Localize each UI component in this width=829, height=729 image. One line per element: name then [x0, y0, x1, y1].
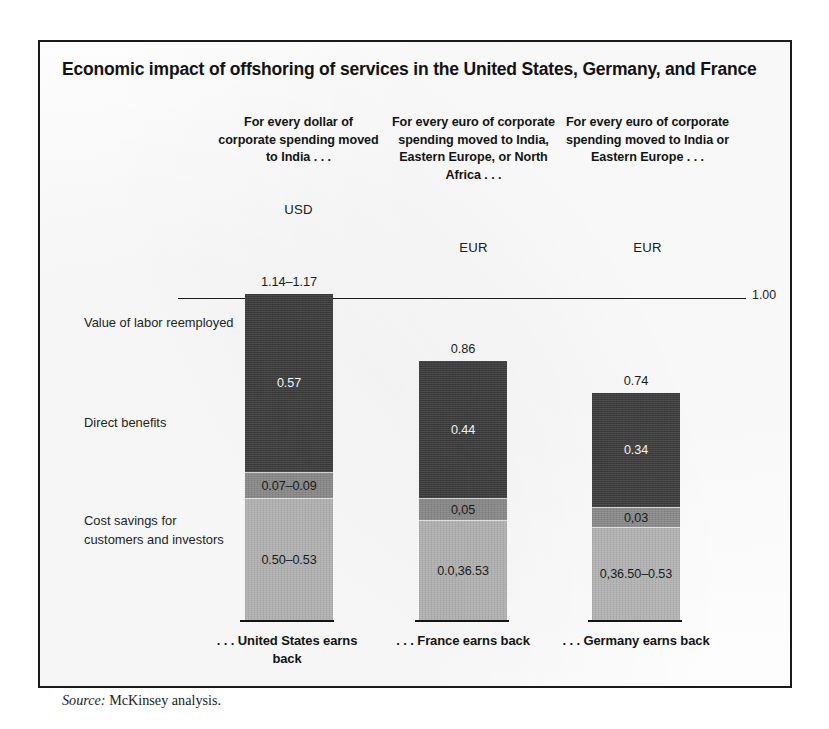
segment-direct-benefits-germany: 0,03	[592, 507, 680, 527]
baseline-france	[415, 620, 509, 622]
segment-value-of-labor-reemployed-france: 0.44	[419, 361, 507, 498]
row-label-value-of-labor-reemployed: Value of labor reemployed	[84, 314, 234, 333]
segment-direct-benefits-france: 0,05	[419, 498, 507, 520]
category-label-united-states: . . . United States earns back	[212, 632, 362, 667]
figure-frame: Economic impact of offshoring of service…	[38, 40, 792, 688]
bar-total-united-states: 1.14–1.17	[245, 274, 333, 289]
bar-total-germany: 0.74	[592, 373, 680, 388]
segment-cost-savings-united-states: 0.50–0.53	[245, 498, 333, 620]
source-text: McKinsey analysis.	[106, 692, 221, 708]
reference-line-value: 1.00	[752, 288, 776, 302]
source-label: Source:	[62, 692, 106, 708]
baseline-germany	[588, 620, 682, 622]
row-label-cost-savings: Cost savings for customers and investors	[84, 512, 234, 549]
baseline-united-states	[240, 620, 334, 622]
category-label-france: . . . France earns back	[388, 632, 538, 650]
source-line: Source: McKinsey analysis.	[62, 692, 221, 709]
segment-cost-savings-france: 0.0,36.53	[419, 520, 507, 620]
row-label-direct-benefits: Direct benefits	[84, 414, 234, 433]
segment-direct-benefits-united-states: 0.07–0.09	[245, 472, 333, 498]
bar-total-france: 0.86	[419, 341, 507, 356]
segment-value-of-labor-reemployed-germany: 0.34	[592, 393, 680, 507]
category-label-germany: . . . Germany earns back	[561, 632, 711, 650]
segment-value-of-labor-reemployed-united-states: 0.57	[245, 294, 333, 472]
plot-area: Value of labor reemployed Direct benefit…	[40, 42, 790, 686]
segment-cost-savings-germany: 0,36.50–0.53	[592, 527, 680, 620]
